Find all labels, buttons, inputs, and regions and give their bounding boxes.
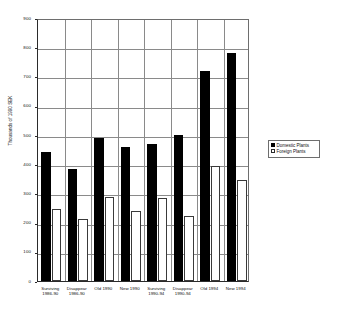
y-tick-label: 0 (15, 280, 31, 284)
y-tick-label: 300 (15, 192, 31, 196)
category-separator (65, 20, 66, 281)
plot-area (37, 19, 249, 282)
bar-domestic (200, 71, 210, 281)
legend-label-domestic: Domestic Plants (277, 143, 310, 148)
bar-domestic (147, 144, 157, 281)
y-tickmark (35, 282, 38, 283)
chart-legend: Domestic Plants Foreign Plants (268, 140, 320, 158)
y-tick-label: 400 (15, 163, 31, 167)
category-separator (118, 20, 119, 281)
bar-domestic (41, 152, 51, 281)
bar-foreign (78, 219, 88, 281)
y-tick-label: 900 (15, 17, 31, 21)
bar-domestic (227, 53, 237, 281)
bar-foreign (131, 211, 141, 281)
y-tick-label: 200 (15, 221, 31, 225)
bar-foreign (237, 180, 247, 281)
category-separator (171, 20, 172, 281)
legend-swatch-foreign-icon (271, 149, 275, 153)
bar-foreign (52, 209, 62, 281)
bar-domestic (68, 169, 78, 281)
category-separator (91, 20, 92, 281)
legend-item-foreign: Foreign Plants (271, 149, 317, 154)
gridline (38, 78, 248, 79)
category-separator (224, 20, 225, 281)
bar-foreign (105, 197, 115, 281)
bar-foreign (158, 198, 168, 281)
y-tick-label: 100 (15, 250, 31, 254)
bar-foreign (184, 216, 194, 281)
y-tick-label: 600 (15, 104, 31, 108)
bar-domestic (121, 147, 131, 281)
category-separator (197, 20, 198, 281)
bar-domestic (94, 138, 104, 281)
gridline (38, 137, 248, 138)
bar-domestic (174, 135, 184, 281)
y-tick-label: 800 (15, 46, 31, 50)
bar-chart: Thousands of 1990 SEK 900800700600500400… (0, 0, 337, 317)
bar-foreign (211, 166, 221, 281)
y-tick-label: 500 (15, 134, 31, 138)
gridline (38, 49, 248, 50)
legend-swatch-domestic-icon (271, 143, 275, 147)
legend-item-domestic: Domestic Plants (271, 143, 317, 148)
category-separator (144, 20, 145, 281)
y-tick-label: 700 (15, 75, 31, 79)
y-axis-title: Thousands of 1990 SEK (8, 81, 13, 161)
legend-label-foreign: Foreign Plants (277, 149, 306, 154)
gridline (38, 108, 248, 109)
x-tick-label: New 1994 (217, 286, 256, 291)
